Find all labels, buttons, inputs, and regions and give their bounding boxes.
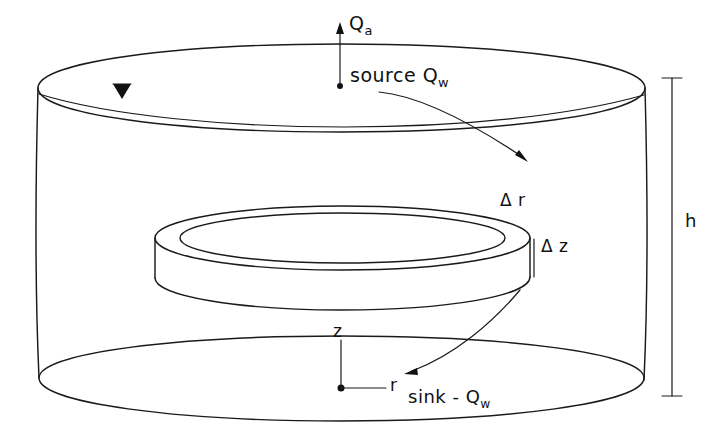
label-axis-z: z	[333, 323, 342, 340]
label-axis-r: r	[390, 377, 398, 394]
label-sink: sink - Qw	[408, 388, 490, 410]
water-table-curve	[39, 94, 644, 127]
label-delta-r: Δ r	[500, 192, 526, 209]
ring-bottom-front-arc	[155, 277, 530, 310]
ring-outer-top-ellipse	[155, 206, 530, 270]
ring-inner-top-ellipse	[180, 213, 505, 263]
cylinder-right-wall	[644, 88, 647, 380]
label-recharge-flux: Qa	[349, 14, 372, 38]
label-source: source Qw	[350, 66, 449, 90]
label-height: h	[685, 212, 697, 230]
source-leader-arrow-icon	[515, 150, 528, 162]
cylinder-left-wall	[36, 88, 39, 378]
source-dot	[337, 83, 343, 89]
figure-root: Qa source Qw Δ r Δ z h z r sink - Qw	[0, 0, 726, 434]
sink-leader-arrow-icon	[404, 368, 418, 375]
recharge-arrow-head-icon	[336, 22, 344, 34]
label-delta-z: Δ z	[541, 238, 568, 255]
water-table-triangle-icon	[113, 84, 131, 99]
